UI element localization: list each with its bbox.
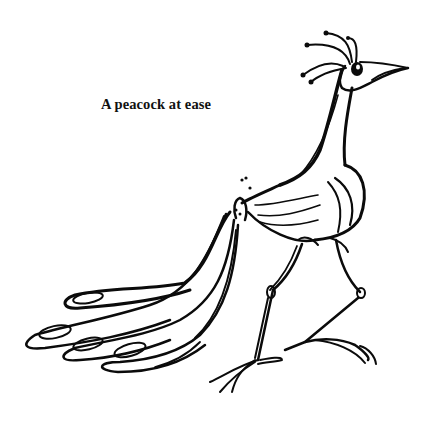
illustration-page: A peacock at ease [0, 0, 435, 426]
body-icon [234, 165, 364, 252]
head-icon [340, 62, 408, 90]
tail-icon [26, 212, 238, 372]
crest-icon [301, 31, 357, 85]
peacock-drawing [0, 0, 435, 426]
